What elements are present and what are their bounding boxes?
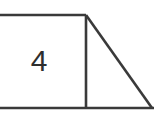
rectangle-side-label: 4 bbox=[31, 44, 48, 77]
hypotenuse-edge-line bbox=[86, 15, 152, 108]
geometry-figure-canvas: 4 bbox=[0, 0, 154, 117]
geometry-figure-svg: 4 bbox=[0, 0, 154, 117]
